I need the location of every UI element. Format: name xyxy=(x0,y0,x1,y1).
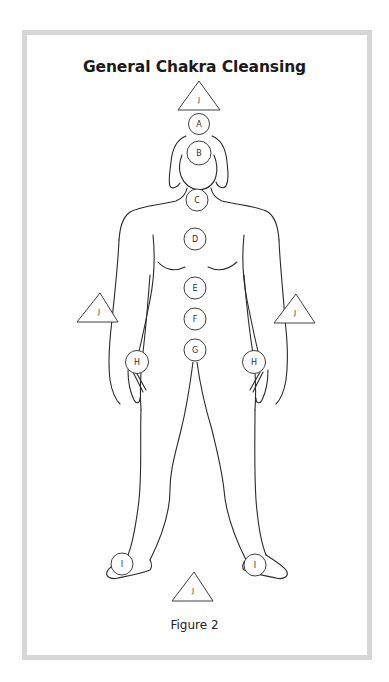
triangle-j-bottom: J xyxy=(172,572,213,601)
svg-text:J: J xyxy=(197,96,200,104)
chakra-point-e: E xyxy=(184,277,206,299)
chakra-point-a: A xyxy=(189,114,210,135)
svg-text:J: J xyxy=(191,587,194,595)
triangle-j-top: J xyxy=(178,81,220,110)
svg-text:H: H xyxy=(251,358,257,367)
svg-text:D: D xyxy=(192,235,198,244)
svg-text:B: B xyxy=(196,149,202,158)
chakra-point-h-left: H xyxy=(126,351,149,374)
svg-text:J: J xyxy=(97,308,100,316)
chakra-point-h-right: H xyxy=(243,351,266,374)
chakra-point-g: G xyxy=(184,339,206,361)
svg-text:I: I xyxy=(121,560,123,569)
svg-text:H: H xyxy=(134,358,140,367)
chakra-point-f: F xyxy=(184,308,206,330)
svg-text:I: I xyxy=(254,561,256,570)
svg-text:G: G xyxy=(192,346,198,355)
chakra-point-d: D xyxy=(184,228,206,250)
triangle-j-right: J xyxy=(274,294,315,323)
svg-text:C: C xyxy=(194,196,200,205)
chakra-point-c: C xyxy=(186,189,208,211)
chakra-point-b: B xyxy=(187,141,211,165)
figure-caption: Figure 2 xyxy=(0,618,389,632)
svg-text:E: E xyxy=(192,284,197,293)
body-diagram: A B C D E F G H H I I J J J J xyxy=(0,0,389,682)
chakra-circles: A B C D E F G H H I I xyxy=(111,114,266,577)
chakra-point-i-right: I xyxy=(244,554,266,576)
triangle-j-left: J xyxy=(77,293,118,322)
svg-text:J: J xyxy=(293,309,296,317)
svg-text:F: F xyxy=(193,315,198,324)
svg-text:A: A xyxy=(196,120,202,129)
chakra-point-i-left: I xyxy=(111,553,133,575)
